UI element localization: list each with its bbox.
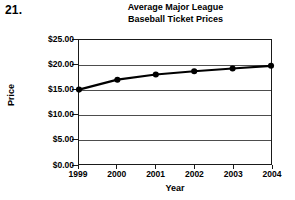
x-axis-title: Year: [78, 183, 272, 193]
y-axis-label-wrap: $25.00: [18, 35, 74, 44]
x-axis-label: 1999: [58, 169, 98, 179]
y-axis-title: Price: [6, 72, 16, 118]
x-axis-label: 2001: [136, 169, 176, 179]
x-axis-label: 2004: [252, 169, 292, 179]
y-axis-label: $20.00: [26, 60, 74, 69]
y-axis-label-wrap: $5.00: [18, 135, 74, 144]
series-polyline: [79, 66, 271, 90]
y-axis-label: $15.00: [26, 85, 74, 94]
data-point-marker: [230, 65, 236, 71]
y-axis-label-wrap: $10.00: [18, 110, 74, 119]
x-axis-label: 2003: [213, 169, 253, 179]
y-axis-label-wrap: $15.00: [18, 85, 74, 94]
y-axis-label-wrap: $20.00: [18, 60, 74, 69]
data-point-marker: [153, 71, 159, 77]
data-point-marker: [268, 63, 274, 69]
question-number: 21.: [5, 4, 22, 17]
chart-title-line-2: Baseball Ticket Prices: [78, 14, 273, 26]
data-point-marker: [114, 77, 120, 83]
chart-title: Average Major League Baseball Ticket Pri…: [78, 2, 273, 25]
data-series-line: [79, 40, 271, 164]
plot-area: [78, 39, 272, 165]
x-axis-label: 2000: [97, 169, 137, 179]
data-point-marker: [191, 68, 197, 74]
chart-title-line-1: Average Major League: [78, 2, 273, 14]
figure: 21. Average Major League Baseball Ticket…: [0, 0, 295, 200]
y-axis-label: $10.00: [26, 110, 74, 119]
data-point-marker: [76, 87, 82, 93]
y-axis-label: $25.00: [26, 35, 74, 44]
y-axis-label: $5.00: [26, 135, 74, 144]
x-axis-label: 2002: [174, 169, 214, 179]
